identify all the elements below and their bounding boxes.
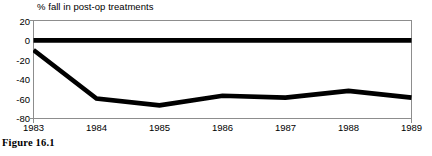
chart-title: % fall in post-op treatments (37, 1, 154, 12)
y-axis-tick-label: -60 (16, 93, 30, 104)
x-axis-tick-label: 1985 (149, 122, 170, 133)
y-axis-tick-label: 20 (19, 16, 30, 27)
y-axis-labels: 200-20-40-60-80 (0, 20, 30, 119)
y-axis-tick-label: 0 (25, 35, 30, 46)
chart-plot-area (33, 20, 412, 119)
figure-container: % fall in post-op treatments 200-20-40-6… (0, 0, 432, 156)
y-axis-tick-label: -40 (16, 74, 30, 85)
y-axis-top-tick (29, 20, 33, 21)
x-axis-left-tick (33, 119, 34, 123)
figure-caption: Figure 16.1 (2, 137, 55, 148)
x-axis-tick-label: 1988 (338, 122, 359, 133)
x-axis-tick-label: 1984 (86, 122, 107, 133)
x-axis-tick-label: 1987 (275, 122, 296, 133)
y-axis-tick-label: -20 (16, 54, 30, 65)
x-axis-tick-label: 1989 (401, 122, 422, 133)
series-postop-line (34, 50, 412, 105)
x-axis-labels: 1983198419851986198719881989 (33, 122, 412, 136)
x-axis-tick-label: 1983 (23, 122, 44, 133)
x-axis-right-tick (411, 119, 412, 123)
x-axis-tick-label: 1986 (212, 122, 233, 133)
